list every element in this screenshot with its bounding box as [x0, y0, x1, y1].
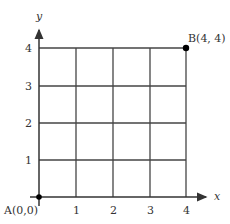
y-tick-4: 4 [25, 42, 32, 55]
x-tick-3: 3 [147, 204, 154, 217]
point-b-label: B(4, 4) [188, 32, 226, 45]
y-axis-label: y [35, 10, 43, 23]
grid-lines [39, 48, 186, 197]
x-axis-label: x [214, 190, 221, 203]
x-tick-1: 1 [73, 204, 80, 217]
point-a-marker [36, 194, 42, 200]
coordinate-grid-diagram: y x 4 3 2 1 1 2 3 4 A(0,0) B(4, 4) [0, 0, 230, 224]
y-tick-2: 2 [25, 117, 32, 130]
point-b-marker [183, 45, 189, 51]
point-a-label: A(0,0) [3, 204, 38, 217]
x-tick-4: 4 [183, 204, 190, 217]
x-tick-2: 2 [110, 204, 117, 217]
y-tick-1: 1 [25, 154, 32, 167]
y-tick-3: 3 [25, 80, 32, 93]
